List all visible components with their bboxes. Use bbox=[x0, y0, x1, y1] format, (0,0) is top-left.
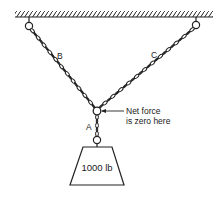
annotation-line-1: Net force bbox=[126, 106, 161, 116]
junction-ring bbox=[93, 107, 101, 115]
label-c: C bbox=[151, 50, 157, 60]
chain-force-diagram: 1000 lb Net force is zero here B C A bbox=[0, 0, 222, 202]
weight-hook bbox=[93, 136, 100, 147]
chain-a bbox=[96, 115, 99, 137]
ceiling bbox=[15, 11, 213, 17]
chain-c bbox=[99, 27, 195, 109]
annotation-line-2: is zero here bbox=[126, 116, 171, 126]
chain-b bbox=[30, 28, 96, 109]
right-anchor bbox=[192, 17, 199, 29]
left-anchor bbox=[25, 17, 32, 30]
label-b: B bbox=[57, 51, 63, 61]
annotation-arrow bbox=[101, 109, 124, 113]
weight-label: 1000 lb bbox=[81, 162, 112, 173]
label-a: A bbox=[86, 122, 92, 132]
